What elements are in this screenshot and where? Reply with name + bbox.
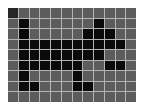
grid-cell-empty[interactable] xyxy=(94,61,104,71)
grid-cell-empty[interactable] xyxy=(126,50,136,60)
grid-cell-filled[interactable] xyxy=(116,61,126,71)
grid-cell-filled[interactable] xyxy=(19,29,29,39)
grid-cell-empty[interactable] xyxy=(94,82,104,92)
grid-cell-filled[interactable] xyxy=(83,82,93,92)
grid-cell-filled[interactable] xyxy=(94,50,104,60)
grid-cell-empty[interactable] xyxy=(62,82,72,92)
grid-cell-empty[interactable] xyxy=(105,82,115,92)
grid-cell-empty[interactable] xyxy=(94,71,104,81)
grid-cell-filled[interactable] xyxy=(30,50,40,60)
grid-cell-filled[interactable] xyxy=(19,50,29,60)
grid-cell-empty[interactable] xyxy=(62,92,72,102)
grid-cell-filled[interactable] xyxy=(40,50,50,60)
grid-cell-empty[interactable] xyxy=(73,19,83,29)
grid-cell-empty[interactable] xyxy=(8,71,18,81)
grid-cell-empty[interactable] xyxy=(105,71,115,81)
grid-cell-filled[interactable] xyxy=(94,29,104,39)
grid-cell-filled[interactable] xyxy=(83,40,93,50)
grid-cell-filled[interactable] xyxy=(40,61,50,71)
grid-cell-filled[interactable] xyxy=(105,29,115,39)
grid-cell-empty[interactable] xyxy=(73,92,83,102)
grid-cell-empty[interactable] xyxy=(116,19,126,29)
grid-cell-empty[interactable] xyxy=(30,29,40,39)
grid-cell-empty[interactable] xyxy=(8,82,18,92)
grid-cell-filled[interactable] xyxy=(73,82,83,92)
grid-cell-empty[interactable] xyxy=(51,8,61,18)
grid-cell-filled[interactable] xyxy=(94,40,104,50)
grid-cell-empty[interactable] xyxy=(126,40,136,50)
grid-cell-empty[interactable] xyxy=(30,92,40,102)
grid-cell-filled[interactable] xyxy=(30,61,40,71)
grid-cell-filled[interactable] xyxy=(105,40,115,50)
grid-cell-empty[interactable] xyxy=(51,92,61,102)
grid-cell-empty[interactable] xyxy=(126,92,136,102)
grid-cell-empty[interactable] xyxy=(40,92,50,102)
grid-cell-filled[interactable] xyxy=(83,29,93,39)
grid-cell-empty[interactable] xyxy=(83,92,93,102)
grid-cell-filled[interactable] xyxy=(116,40,126,50)
grid-cell-empty[interactable] xyxy=(8,40,18,50)
grid-cell-empty[interactable] xyxy=(116,8,126,18)
grid-cell-filled[interactable] xyxy=(73,71,83,81)
grid-cell-empty[interactable] xyxy=(40,71,50,81)
grid-cell-empty[interactable] xyxy=(126,8,136,18)
grid-cell-empty[interactable] xyxy=(62,19,72,29)
grid-cell-empty[interactable] xyxy=(8,92,18,102)
grid-cell-empty[interactable] xyxy=(73,8,83,18)
grid-cell-empty[interactable] xyxy=(94,92,104,102)
grid-cell-empty[interactable] xyxy=(51,29,61,39)
grid-cell-filled[interactable] xyxy=(40,40,50,50)
grid-cell-empty[interactable] xyxy=(30,8,40,18)
grid-cell-empty[interactable] xyxy=(126,71,136,81)
grid-cell-empty[interactable] xyxy=(94,8,104,18)
grid-cell-filled[interactable] xyxy=(105,61,115,71)
grid-cell-empty[interactable] xyxy=(62,8,72,18)
grid-cell-empty[interactable] xyxy=(30,19,40,29)
grid-cell-empty[interactable] xyxy=(62,29,72,39)
grid-cell-empty[interactable] xyxy=(40,8,50,18)
grid-cell-empty[interactable] xyxy=(83,8,93,18)
grid-cell-empty[interactable] xyxy=(62,71,72,81)
grid-cell-filled[interactable] xyxy=(73,61,83,71)
grid-cell-empty[interactable] xyxy=(51,19,61,29)
grid-cell-empty[interactable] xyxy=(51,82,61,92)
grid-cell-filled[interactable] xyxy=(73,50,83,60)
grid-cell-empty[interactable] xyxy=(105,8,115,18)
grid-cell-filled[interactable] xyxy=(51,40,61,50)
grid-cell-filled[interactable] xyxy=(30,82,40,92)
grid-cell-empty[interactable] xyxy=(8,19,18,29)
grid-cell-empty[interactable] xyxy=(19,8,29,18)
grid-cell-empty[interactable] xyxy=(116,29,126,39)
grid-cell-filled[interactable] xyxy=(94,19,104,29)
grid-cell-filled[interactable] xyxy=(30,40,40,50)
grid-cell-empty[interactable] xyxy=(19,92,29,102)
grid-cell-empty[interactable] xyxy=(8,61,18,71)
grid-cell-cursor[interactable] xyxy=(8,8,18,18)
grid-cell-empty[interactable] xyxy=(116,50,126,60)
grid-cell-filled[interactable] xyxy=(19,19,29,29)
grid-cell-empty[interactable] xyxy=(8,29,18,39)
grid-cell-filled[interactable] xyxy=(62,61,72,71)
grid-cell-filled[interactable] xyxy=(19,71,29,81)
grid-cell-empty[interactable] xyxy=(116,82,126,92)
grid-cell-empty[interactable] xyxy=(116,71,126,81)
grid-cell-filled[interactable] xyxy=(73,40,83,50)
grid-cell-empty[interactable] xyxy=(30,71,40,81)
grid-cell-empty[interactable] xyxy=(83,71,93,81)
grid-cell-empty[interactable] xyxy=(83,61,93,71)
grid-cell-filled[interactable] xyxy=(19,40,29,50)
grid-cell-empty[interactable] xyxy=(126,19,136,29)
grid-cell-filled[interactable] xyxy=(83,50,93,60)
grid-cell-filled[interactable] xyxy=(51,50,61,60)
grid-cell-empty[interactable] xyxy=(105,92,115,102)
grid-cell-empty[interactable] xyxy=(126,29,136,39)
grid-cell-empty[interactable] xyxy=(40,29,50,39)
grid-cell-empty[interactable] xyxy=(126,82,136,92)
grid-cell-empty[interactable] xyxy=(40,19,50,29)
grid-cell-empty[interactable] xyxy=(40,82,50,92)
grid-cell-filled[interactable] xyxy=(62,50,72,60)
grid-cell-empty[interactable] xyxy=(73,29,83,39)
grid-cell-empty[interactable] xyxy=(105,19,115,29)
grid-cell-empty[interactable] xyxy=(105,50,115,60)
grid-cell-empty[interactable] xyxy=(51,71,61,81)
